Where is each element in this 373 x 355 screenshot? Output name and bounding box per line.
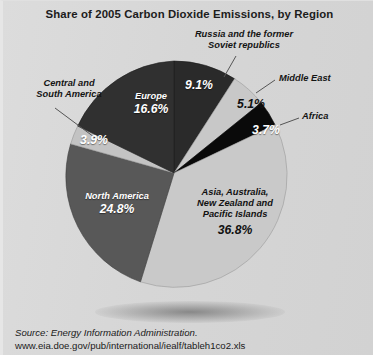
slice-label-asia: Asia, Australia, New Zealand and Pacific… xyxy=(176,187,294,237)
callout-russia: Russia and the former Soviet republics xyxy=(181,29,307,51)
slice-value-asia: 36.8% xyxy=(176,223,294,237)
slice-name-asia-line1: Asia, Australia, xyxy=(176,187,294,198)
leader-line-middle-east xyxy=(256,80,275,93)
slice-name-asia-line3: Pacific Islands xyxy=(176,209,294,220)
callout-russia-line1: Russia and the former xyxy=(195,29,293,39)
slice-label-north-america: North America 24.8% xyxy=(65,191,169,216)
chart-figure: Share of 2005 Carbon Dioxide Emissions, … xyxy=(0,0,373,355)
source-lead: Source: Energy Information Administratio… xyxy=(15,327,198,338)
slice-name-north-america: North America xyxy=(65,191,169,202)
callout-middle-east: Middle East xyxy=(279,73,331,84)
callout-central-south-america-line1: Central and xyxy=(43,78,94,88)
slice-value-central-south-america: 3.9% xyxy=(65,133,123,147)
slice-name-asia-line2: New Zealand and xyxy=(176,198,294,209)
slice-label-central-south-america: 3.9% xyxy=(65,133,123,147)
slice-value-middle-east: 5.1% xyxy=(222,97,280,111)
slice-value-north-america: 24.8% xyxy=(65,202,169,216)
callout-middle-east-line1: Middle East xyxy=(279,73,331,83)
leader-line-russia xyxy=(224,56,236,77)
slice-label-africa: 3.7% xyxy=(238,123,294,137)
slice-value-africa: 3.7% xyxy=(238,123,294,137)
callout-africa: Africa xyxy=(302,111,328,122)
callout-russia-line2: Soviet republics xyxy=(208,40,280,50)
source-note: Source: Energy Information Administratio… xyxy=(15,326,245,352)
slice-value-europe: 16.6% xyxy=(116,102,186,116)
source-url[interactable]: www.eia.doe.gov/pub/international/iealf/… xyxy=(15,339,245,352)
callout-central-south-america: Central and South America xyxy=(17,78,121,100)
callout-leader-lines xyxy=(3,1,373,355)
slice-label-europe: Europe 16.6% xyxy=(116,91,186,116)
callout-africa-line1: Africa xyxy=(302,111,328,121)
callout-central-south-america-line2: South America xyxy=(36,89,101,99)
slice-label-middle-east: 5.1% xyxy=(222,97,280,111)
slice-name-europe: Europe xyxy=(116,91,186,102)
